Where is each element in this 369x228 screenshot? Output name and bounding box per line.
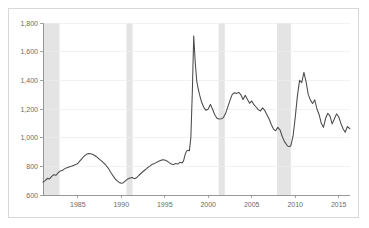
y-tick-label-1000: 1,000 xyxy=(20,134,38,141)
x-tick-label-1995: 1995 xyxy=(157,201,173,208)
series-line-index xyxy=(43,36,350,183)
x-tick-label-1990: 1990 xyxy=(113,201,129,208)
y-tick-label-1800: 1,800 xyxy=(20,20,38,27)
y-tick-label-800: 800 xyxy=(26,163,38,170)
x-tick-label-2010: 2010 xyxy=(287,201,303,208)
gridlines-group xyxy=(43,23,350,166)
chart-frame: 6008001,0001,2001,4001,6001,800 19851990… xyxy=(8,8,359,218)
x-axis-ticks-group: 1985199019952000200520102015 xyxy=(70,195,347,208)
y-tick-label-1600: 1,600 xyxy=(20,48,38,55)
y-axis-ticks-group: 6008001,0001,2001,4001,6001,800 xyxy=(20,20,43,199)
line-chart: 6008001,0001,2001,4001,6001,800 19851990… xyxy=(9,9,360,219)
y-tick-label-600: 600 xyxy=(26,192,38,199)
x-tick-label-2015: 2015 xyxy=(331,201,347,208)
x-tick-label-2005: 2005 xyxy=(244,201,260,208)
y-tick-label-1200: 1,200 xyxy=(20,106,38,113)
x-tick-label-1985: 1985 xyxy=(70,201,86,208)
x-tick-label-2000: 2000 xyxy=(200,201,216,208)
y-tick-label-1400: 1,400 xyxy=(20,77,38,84)
